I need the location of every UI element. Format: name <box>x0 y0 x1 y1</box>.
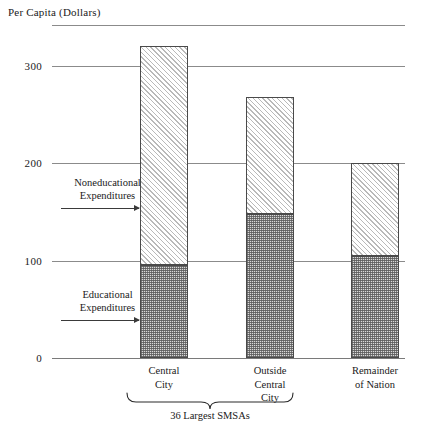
y-tick-label-200: 200 <box>2 157 42 169</box>
annotation-educational-label: Educational Expenditures <box>60 288 155 314</box>
bar-remainder-of-nation <box>351 163 399 358</box>
annotation-noneducational-line1: Noneducational <box>60 176 155 189</box>
annotation-educational-arrow <box>61 320 139 321</box>
y-axis-title: Per Capita (Dollars) <box>8 6 101 18</box>
brace-icon <box>124 392 296 410</box>
group-bracket-label: 36 Largest SMSAs <box>124 410 296 421</box>
bar-segment-educational-remainder-of-nation <box>351 256 399 358</box>
bar-segment-noneducational-central-city <box>140 46 188 265</box>
bar-outside-central-city <box>246 97 294 358</box>
bar-segment-educational-outside-central-city <box>246 214 294 358</box>
bar-segment-noneducational-remainder-of-nation <box>351 163 399 256</box>
y-tick-label-300: 300 <box>2 60 42 72</box>
gridline-top <box>52 25 405 26</box>
gridline-300 <box>52 66 405 67</box>
x-axis-label-central-city: Central City <box>124 364 204 391</box>
x-axis-label-central-city-line1: Central <box>124 364 204 378</box>
x-axis-label-outside-central-city-line1: Outside <box>230 364 310 378</box>
annotation-noneducational-line2: Expenditures <box>60 189 155 202</box>
x-axis-label-remainder-of-nation-line1: Remainder <box>331 364 419 378</box>
annotation-educational-line2: Expenditures <box>60 301 155 314</box>
group-bracket-36-largest-smsas <box>124 392 296 410</box>
x-axis-label-outside-central-city-line2: Central <box>230 378 310 392</box>
y-tick-label-0: 0 <box>2 352 42 364</box>
y-tick-label-100: 100 <box>2 255 42 267</box>
gridline-0-baseline <box>52 358 405 359</box>
x-axis-label-remainder-of-nation: Remainder of Nation <box>331 364 419 391</box>
annotation-educational-line1: Educational <box>60 288 155 301</box>
x-axis-label-central-city-line2: City <box>124 378 204 392</box>
x-axis-label-remainder-of-nation-line2: of Nation <box>331 378 419 392</box>
bar-segment-noneducational-outside-central-city <box>246 97 294 214</box>
annotation-noneducational-label: Noneducational Expenditures <box>60 176 155 202</box>
annotation-noneducational-arrow <box>61 208 139 209</box>
chart-container: Per Capita (Dollars) 300 200 100 0 Noned… <box>0 0 432 433</box>
